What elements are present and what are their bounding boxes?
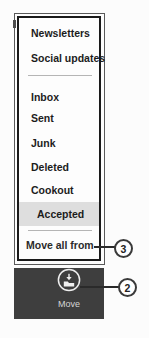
menu-item-cookout[interactable]: Cookout (19, 184, 99, 196)
menu-item-move-all-from[interactable]: Move all from (26, 239, 94, 251)
callout-circle-3: 3 (114, 239, 133, 258)
menu-item-deleted[interactable]: Deleted (19, 161, 99, 173)
menu-item-sent[interactable]: Sent (19, 112, 99, 124)
menu-divider (28, 75, 92, 76)
callout-line-2 (80, 286, 119, 288)
move-button-label: Move (49, 299, 89, 309)
menu-item-inbox[interactable]: Inbox (19, 91, 99, 103)
frame-edge-mark (13, 20, 16, 28)
menu-item-social-updates[interactable]: Social updates (19, 52, 99, 64)
callout-line-3 (94, 246, 115, 248)
move-button[interactable] (57, 268, 81, 292)
app-bar: Move (14, 268, 104, 319)
menu-item-junk[interactable]: Junk (19, 137, 99, 149)
menu-item-accepted-selected[interactable]: Accepted (19, 202, 99, 226)
menu-divider (28, 230, 92, 231)
move-flyout-menu: Newsletters Social updates Inbox Sent Ju… (17, 16, 101, 261)
menu-item-newsletters[interactable]: Newsletters (19, 27, 99, 39)
move-to-folder-icon (57, 278, 81, 295)
callout-circle-2: 2 (118, 278, 137, 297)
